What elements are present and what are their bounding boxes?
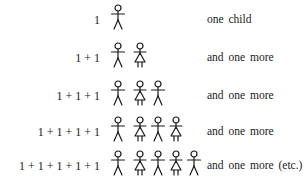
- girl-figure-icon: [132, 80, 148, 110]
- row-description: and one more: [207, 51, 274, 63]
- boy-figure-icon: [110, 42, 126, 72]
- diagram-row: 1 + 1 + 1 and one more: [0, 80, 307, 116]
- row-description: and one more: [207, 125, 274, 137]
- boy-figure-icon: [110, 80, 126, 110]
- boy-figure-icon: [110, 4, 126, 34]
- children-group: [110, 80, 168, 110]
- children-group: [110, 4, 132, 34]
- row-description: and one more (etc.): [207, 159, 302, 171]
- children-group: [110, 150, 204, 180]
- diagram-row: 1 one child: [0, 4, 307, 40]
- children-group: [110, 116, 186, 146]
- addition-expression: 1 + 1 + 1: [56, 89, 100, 104]
- row-description: one child: [207, 13, 251, 25]
- boy-figure-icon: [150, 116, 166, 146]
- diagram-row: 1 + 1 + 1 + 1 and one more: [0, 116, 307, 152]
- addition-expression: 1 + 1 + 1 + 1: [38, 125, 100, 140]
- boy-figure-icon: [150, 80, 166, 110]
- addition-expression: 1 + 1 + 1 + 1 + 1: [19, 159, 100, 174]
- girl-figure-icon: [168, 150, 184, 180]
- boy-figure-icon: [186, 150, 202, 180]
- addition-expression: 1 + 1: [75, 51, 100, 66]
- girl-figure-icon: [168, 116, 184, 146]
- row-description: and one more: [207, 89, 274, 101]
- girl-figure-icon: [132, 150, 148, 180]
- girl-figure-icon: [132, 116, 148, 146]
- diagram-row: 1 + 1 and one more: [0, 42, 307, 78]
- boy-figure-icon: [150, 150, 166, 180]
- girl-figure-icon: [132, 42, 148, 72]
- boy-figure-icon: [110, 116, 126, 146]
- diagram-row: 1 + 1 + 1 + 1 + 1: [0, 150, 307, 186]
- boy-figure-icon: [110, 150, 126, 180]
- addition-expression: 1: [94, 13, 100, 28]
- children-group: [110, 42, 150, 72]
